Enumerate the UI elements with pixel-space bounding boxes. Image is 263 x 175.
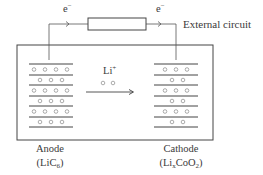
external-circuit-label: External circuit [183, 18, 251, 30]
wire-right [146, 24, 176, 60]
electron-label-right: e− [156, 3, 165, 14]
cathode-formula: (LixCoO2) [159, 157, 202, 168]
resistor [88, 18, 146, 30]
anode-layers [29, 64, 73, 127]
cell-box [17, 45, 213, 140]
electrolyte-ions [101, 81, 115, 85]
anode-label: Anode [36, 143, 64, 154]
lithium-ion-label: Li+ [103, 65, 116, 76]
electron-label-left: e− [63, 3, 72, 14]
anode-formula: (LiC6) [37, 157, 64, 168]
cathode-label: Cathode [164, 143, 199, 154]
wire-left [49, 24, 88, 60]
cathode-layers [154, 64, 198, 127]
